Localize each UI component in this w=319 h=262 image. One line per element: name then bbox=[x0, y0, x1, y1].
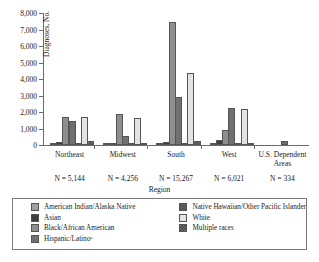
bar bbox=[228, 108, 235, 145]
bar bbox=[175, 97, 182, 145]
legend-label: Black/African American bbox=[44, 224, 114, 232]
bar bbox=[194, 141, 201, 145]
legend-label: Multiple races bbox=[192, 224, 233, 232]
legend-swatch-icon bbox=[179, 203, 187, 211]
legend-swatch-icon bbox=[31, 224, 39, 232]
x-group-separator bbox=[94, 145, 95, 149]
y-tick-label: 1,000 bbox=[20, 125, 37, 133]
bar-group bbox=[256, 13, 309, 145]
chart-figure: Diagnoses, No. 01,0002,0003,0004,0005,00… bbox=[0, 0, 319, 262]
y-tick-label: 6,000 bbox=[20, 43, 37, 51]
x-group-separator bbox=[254, 145, 255, 149]
legend-swatch-icon bbox=[179, 224, 187, 232]
legend-item: Multiple races bbox=[179, 224, 306, 232]
y-tick-label: 2,000 bbox=[20, 109, 37, 117]
y-tick-label: 3,000 bbox=[20, 92, 37, 100]
legend-item: Black/African American bbox=[31, 224, 175, 232]
bar bbox=[140, 143, 147, 145]
x-category-count: N = 334 bbox=[250, 174, 315, 183]
plot-area: Diagnoses, No. 01,0002,0003,0004,0005,00… bbox=[43, 13, 309, 145]
legend-item: Native Hawaiian/Other Pacific Islander bbox=[179, 203, 306, 211]
y-tick-label: 7,000 bbox=[20, 26, 37, 34]
bar bbox=[241, 109, 248, 145]
y-tick-label: 8,000 bbox=[20, 10, 37, 18]
legend-swatch-icon bbox=[31, 214, 39, 222]
chart-legend: American Indian/Alaska NativeAsianBlack/… bbox=[12, 198, 307, 250]
bar bbox=[247, 143, 254, 145]
y-tick-label: 0 bbox=[33, 142, 37, 150]
legend-label: Asian bbox=[44, 214, 61, 222]
bar-group bbox=[43, 13, 96, 145]
legend-label: American Indian/Alaska Native bbox=[44, 203, 135, 211]
y-tick-mark bbox=[39, 145, 43, 146]
y-tick-label: 4,000 bbox=[20, 76, 37, 84]
bar bbox=[281, 141, 288, 145]
legend-label: Native Hawaiian/Other Pacific Islander bbox=[192, 203, 306, 211]
bar bbox=[87, 141, 94, 145]
legend-item: Asian bbox=[31, 214, 175, 222]
legend-column-left: American Indian/Alaska NativeAsianBlack/… bbox=[13, 203, 175, 249]
legend-swatch-icon bbox=[31, 203, 39, 211]
bar bbox=[134, 118, 141, 145]
bar bbox=[187, 73, 194, 145]
bar-group bbox=[149, 13, 202, 145]
legend-label: White bbox=[192, 214, 210, 222]
legend-column-right: Native Hawaiian/Other Pacific IslanderWh… bbox=[175, 203, 306, 249]
x-category-label: U.S. Dependent Areas bbox=[250, 150, 315, 168]
x-group-separator bbox=[201, 145, 202, 149]
bar-group bbox=[96, 13, 149, 145]
x-axis-line bbox=[43, 145, 309, 146]
legend-swatch-icon bbox=[179, 214, 187, 222]
bar-group bbox=[203, 13, 256, 145]
x-axis-title: Region bbox=[0, 185, 319, 194]
legend-swatch-icon bbox=[31, 235, 39, 243]
legend-label: Hispanic/Latinoᵃ bbox=[44, 235, 92, 243]
legend-item: White bbox=[179, 214, 306, 222]
bar bbox=[69, 121, 76, 145]
x-group-separator bbox=[147, 145, 148, 149]
legend-item: American Indian/Alaska Native bbox=[31, 203, 175, 211]
y-tick-label: 5,000 bbox=[20, 59, 37, 67]
legend-item: Hispanic/Latinoᵃ bbox=[31, 235, 175, 243]
